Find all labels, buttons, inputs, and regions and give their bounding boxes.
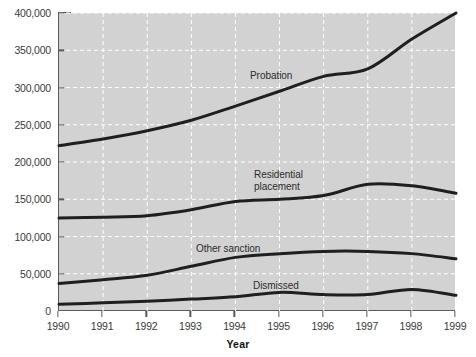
x-tick-label: 1997 (355, 320, 378, 332)
series-label-residential-placement: Residential placement (254, 169, 303, 192)
x-tick-mark (146, 311, 147, 317)
x-tick-label: 1991 (91, 320, 114, 332)
y-tick-mark (58, 124, 64, 125)
y-tick-label: 350,000 (0, 44, 58, 56)
chart-figure: 050,000100,000150,000200,000250,000300,0… (0, 0, 476, 357)
y-tick-mark (58, 161, 64, 162)
x-tick-mark (454, 311, 455, 317)
y-tick-mark (58, 273, 64, 274)
x-tick-mark (234, 311, 235, 317)
x-tick-label: 1995 (267, 320, 290, 332)
gridlines (59, 13, 456, 311)
x-tick-label: 1999 (444, 320, 467, 332)
plot-area (58, 13, 455, 311)
plot-lines (59, 13, 456, 311)
x-tick-label: 1990 (47, 320, 70, 332)
x-tick-label: 1996 (311, 320, 334, 332)
x-tick-label: 1998 (400, 320, 423, 332)
series-label-probation: Probation (250, 70, 292, 82)
y-tick-label: 150,000 (0, 193, 58, 205)
x-tick-mark (366, 311, 367, 317)
y-tick-label: 250,000 (0, 119, 58, 131)
y-tick-label: 0 (0, 305, 58, 317)
x-tick-label: 1992 (135, 320, 158, 332)
y-tick-label: 300,000 (0, 82, 58, 94)
y-tick-label: 400,000 (0, 7, 58, 19)
y-tick-mark (58, 236, 64, 237)
series-label-other-sanction: Other sanction (196, 243, 260, 255)
x-tick-mark (57, 311, 58, 317)
y-tick-label: 200,000 (0, 156, 58, 168)
y-tick-mark (58, 199, 64, 200)
y-tick-mark (58, 50, 64, 51)
series-line (59, 289, 456, 304)
x-axis-title: Year (0, 338, 476, 350)
y-tick-label: 100,000 (0, 231, 58, 243)
y-tick-label: 50,000 (0, 268, 58, 280)
series-label-dismissed: Dismissed (253, 280, 299, 292)
x-tick-mark (190, 311, 191, 317)
x-tick-mark (410, 311, 411, 317)
x-tick-mark (322, 311, 323, 317)
x-tick-mark (101, 311, 102, 317)
series-line (59, 251, 456, 283)
y-tick-mark (58, 87, 64, 88)
x-tick-label: 1994 (223, 320, 246, 332)
x-tick-label: 1993 (179, 320, 202, 332)
y-tick-mark (58, 12, 64, 13)
series-lines (59, 13, 456, 304)
x-tick-mark (278, 311, 279, 317)
